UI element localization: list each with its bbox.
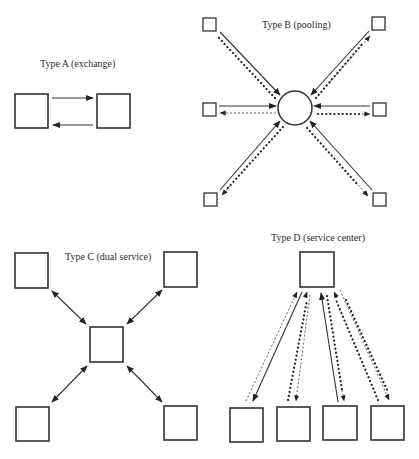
double-arrow-icon (127, 366, 162, 402)
double-arrow-icon (127, 290, 162, 324)
arrow-icon (220, 121, 280, 190)
diagram-canvas: Type A (exchange) Type B (pooling) (0, 0, 419, 459)
type-c-dual-service: Type C (dual service) (15, 251, 197, 441)
arrow-icon (321, 293, 338, 402)
type-b-pooling: Type B (pooling) (203, 17, 386, 206)
type-d-node-2 (277, 407, 310, 441)
double-arrow-icon (52, 366, 87, 402)
dotted-line (346, 300, 388, 392)
dashed-arrow-icon (330, 36, 370, 82)
dashed-arrow-icon (340, 290, 389, 400)
dotted-line (226, 127, 283, 190)
arrow-icon (305, 292, 307, 298)
type-b-node-mid-left (203, 103, 216, 116)
dotted-line (307, 128, 358, 185)
type-c-title: Type C (dual service) (65, 251, 151, 263)
type-d-node-1 (230, 408, 263, 442)
type-d-title: Type D (service center) (271, 232, 365, 244)
arrow-icon (220, 32, 280, 95)
type-d-node-3 (323, 406, 357, 440)
type-c-node-top-right (164, 252, 197, 287)
type-a-title: Type A (exchange) (40, 58, 115, 70)
dashed-arrow-icon (222, 186, 230, 195)
type-b-title: Type B (pooling) (262, 19, 331, 31)
pool-circle (278, 91, 312, 125)
type-c-center-node (90, 327, 123, 362)
type-b-node-bottom-right (373, 193, 386, 206)
type-c-node-bottom-left (16, 407, 49, 441)
type-d-service-center: Type D (service center) (230, 232, 404, 442)
arrow-icon (311, 31, 369, 95)
dashed-arrow-icon (246, 292, 297, 401)
dotted-line (218, 37, 275, 98)
type-b-node-mid-right (373, 103, 386, 116)
dashed-arrow-icon (358, 185, 368, 196)
type-c-node-bottom-right (164, 406, 197, 440)
dotted-line (288, 300, 307, 400)
type-b-node-bottom-left (204, 193, 217, 206)
service-center-node (300, 252, 334, 287)
type-a-node-right (97, 94, 130, 128)
type-b-node-top-left (203, 18, 216, 31)
arrow-icon (253, 292, 302, 401)
type-a-node-left (15, 94, 48, 128)
type-c-node-top-left (15, 253, 48, 288)
dotted-line (316, 42, 364, 98)
arrow-icon (334, 292, 337, 298)
double-arrow-icon (52, 291, 86, 324)
type-d-node-4 (371, 406, 404, 440)
type-b-node-top-right (372, 17, 385, 30)
type-a-exchange: Type A (exchange) (15, 58, 130, 128)
dashed-arrow-icon (342, 390, 344, 401)
arrow-icon (310, 121, 372, 190)
